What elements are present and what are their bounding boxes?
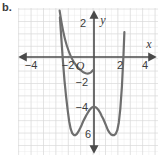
ytick-label-2: 2 [80, 17, 86, 29]
part-label: b. [2, 1, 12, 13]
xtick-label--4: −4 [25, 59, 38, 71]
ytick-label--2: −2 [75, 76, 88, 88]
xtick-label-2: 2 [117, 59, 123, 71]
ytick-label--4: −4 [75, 101, 88, 113]
xtick-label--2: −2 [62, 59, 75, 71]
figure-b: b. [0, 0, 165, 163]
x-axis-label: x [145, 37, 152, 51]
xtick-label-4: 4 [142, 59, 148, 71]
ytick-label--6: 6 [85, 128, 91, 140]
y-axis-label: y [99, 13, 106, 27]
origin-label: O [76, 59, 85, 73]
coordinate-plane: −4 −2 2 4 2 −2 −4 6 O x y [18, 8, 158, 155]
